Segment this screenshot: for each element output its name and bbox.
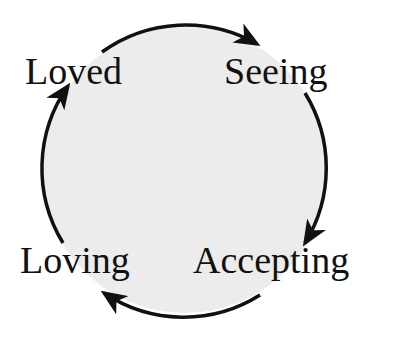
node-label-loving: Loving [20, 239, 130, 281]
node-label-loved: Loved [25, 50, 122, 92]
node-label-accepting: Accepting [193, 239, 349, 281]
cycle-diagram: Loved Seeing Loving Accepting [0, 0, 394, 338]
node-label-seeing: Seeing [224, 50, 327, 92]
